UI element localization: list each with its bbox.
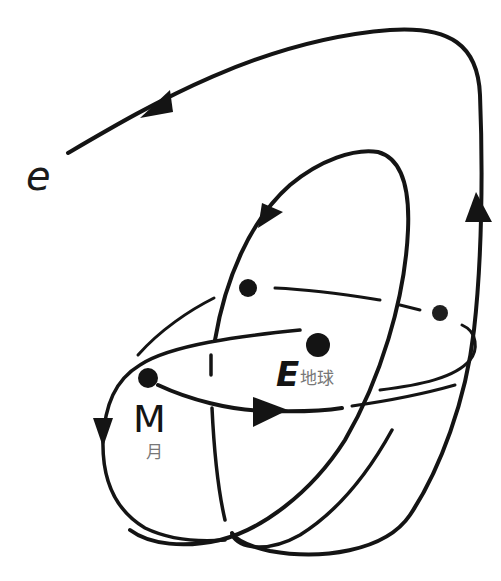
arrow-outer-up-icon [465,192,492,222]
moon-label: M [133,397,166,441]
horizontal-orbit-back-right [400,305,420,310]
arrow-moon-right-icon [253,397,288,427]
horizontal-orbit-right-hook [380,325,475,390]
outer-bottom-lobe [232,430,392,547]
electron-label: e [26,153,51,199]
arrow-tilted-down-icon [258,203,283,228]
earth-dot [306,333,330,357]
outer-trajectory-path [68,29,482,554]
horizontal-orbit-back-mid [275,288,380,300]
node-right-dot [432,305,448,321]
orbit-diagram: e E 地球 M 月 [0,0,501,581]
earth-label: E [276,354,299,394]
tilted-orbit-lower-segment-2 [212,408,225,520]
node-left-dot [239,279,257,297]
moon-to-right-path [158,385,342,411]
arrow-left-down-icon [93,418,113,447]
moon-cn-label: 月 [146,442,163,462]
arrow-outer-left-icon [140,90,173,118]
horizontal-orbit-back-left [138,298,214,355]
moon-dot [138,368,158,388]
earth-cn-label: 地球 [300,368,334,388]
